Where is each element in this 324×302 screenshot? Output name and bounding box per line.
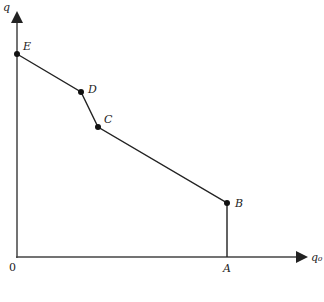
label-d: D bbox=[87, 83, 97, 96]
label-a: A bbox=[222, 262, 231, 275]
point-d bbox=[78, 89, 84, 95]
y-axis-label: q bbox=[3, 1, 10, 14]
point-c bbox=[95, 124, 101, 130]
label-b: B bbox=[234, 197, 243, 210]
label-e: E bbox=[22, 40, 31, 53]
label-c: C bbox=[104, 113, 113, 126]
frontier-diagram: q q₀ 0 E D C B A bbox=[0, 0, 324, 302]
point-b bbox=[224, 200, 230, 206]
origin-label: 0 bbox=[9, 261, 16, 274]
point-e bbox=[14, 51, 20, 57]
frontier-line bbox=[17, 54, 227, 257]
x-axis-label: q₀ bbox=[311, 251, 323, 264]
